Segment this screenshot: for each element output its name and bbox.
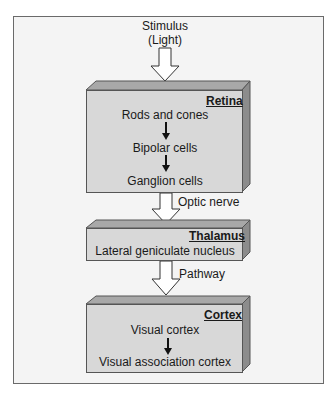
visual-association-cortex-label: Visual association cortex <box>99 355 231 369</box>
cortex-inner-arrow <box>0 0 335 397</box>
down-arrow-icon <box>164 338 172 355</box>
